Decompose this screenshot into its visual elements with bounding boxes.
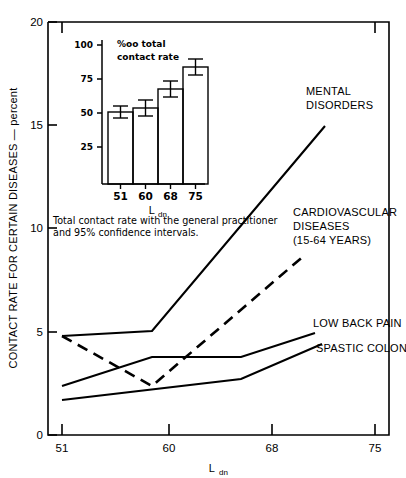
inset-y-tick-50: 50: [80, 108, 102, 118]
series-label-cardiovascular-diseases: CARDIOVASCULAR DISEASES (15-64 YEARS): [293, 206, 397, 246]
x-tick-label-60: 60: [163, 442, 176, 454]
caption-line-2: and 95% confidence intervals.: [53, 227, 199, 238]
caption-line-1: Total contact rate with the general prac…: [52, 215, 278, 226]
inset-title: %oo total contact rate: [117, 39, 179, 62]
x-tick-label-68: 68: [266, 442, 279, 454]
inset-y-axis: 100 75 50 25: [74, 40, 102, 152]
inset-title-line2: contact rate: [117, 52, 179, 62]
y-tick-0: 0: [37, 429, 57, 441]
svg-text:SPASTIC COLON: SPASTIC COLON: [316, 342, 406, 354]
inset-x-label-51: 51: [113, 190, 128, 202]
y-tick-label-10: 10: [30, 222, 43, 234]
inset-y-tick-75: 75: [80, 74, 102, 84]
chart-svg: 20 15 10 5 0: [0, 0, 406, 478]
inset-bar-60: [133, 100, 158, 184]
x-axis-title-base: L: [209, 462, 215, 474]
y-tick-label-20: 20: [30, 16, 43, 28]
y-tick-20: 20: [30, 16, 57, 28]
inset-x-label-75: 75: [188, 190, 203, 202]
series-line-spastic-colon: [62, 344, 322, 400]
inset-y-tick-25: 25: [80, 142, 102, 152]
svg-text:MENTAL: MENTAL: [306, 85, 351, 97]
main-x-axis-title: L dn: [209, 462, 228, 477]
svg-text:DISEASES: DISEASES: [293, 220, 350, 232]
inset-bar-51: [108, 106, 133, 184]
svg-text:25: 25: [80, 142, 93, 152]
inset-x-label-60: 60: [138, 190, 153, 202]
x-tick-51: 51: [56, 22, 69, 454]
svg-text:75: 75: [80, 74, 93, 84]
y-tick-15: 15: [30, 119, 57, 131]
x-tick-label-75: 75: [369, 442, 382, 454]
x-tick-label-51: 51: [56, 442, 69, 454]
svg-text:CONTACT RATE FOR CERTAIN DISEA: CONTACT RATE FOR CERTAIN DISEASES — perc…: [7, 88, 19, 369]
x-tick-60: 60: [163, 424, 176, 454]
main-y-axis-title: CONTACT RATE FOR CERTAIN DISEASES — perc…: [7, 88, 19, 369]
y-tick-label-0: 0: [37, 429, 43, 441]
inset-x-label-68: 68: [163, 190, 178, 202]
inset-bar-chart: 100 75 50 25: [74, 39, 208, 219]
series-label-low-back-pain: LOW BACK PAIN: [313, 317, 402, 329]
x-tick-68: 68: [266, 424, 279, 454]
series-label-spastic-colon: SPASTIC COLON: [316, 342, 406, 354]
svg-text:LOW BACK PAIN: LOW BACK PAIN: [313, 317, 402, 329]
inset-bar-75: [183, 59, 208, 184]
inset-y-tick-100: 100: [74, 40, 102, 50]
series-label-mental-disorders: MENTAL DISORDERS: [306, 85, 373, 111]
svg-text:100: 100: [74, 40, 93, 50]
svg-text:50: 50: [80, 108, 93, 118]
svg-text:(15-64 YEARS): (15-64 YEARS): [293, 234, 371, 246]
chart-figure: 20 15 10 5 0: [0, 0, 406, 478]
series-line-low-back-pain: [62, 333, 315, 386]
svg-text:DISORDERS: DISORDERS: [306, 99, 373, 111]
x-axis-title-sub: dn: [219, 468, 228, 477]
y-tick-label-15: 15: [30, 119, 43, 131]
inset-bar-68: [158, 81, 183, 184]
y-tick-5: 5: [37, 326, 57, 338]
svg-text:CARDIOVASCULAR: CARDIOVASCULAR: [293, 206, 397, 218]
inset-caption: Total contact rate with the general prac…: [52, 215, 278, 238]
inset-x-axis: 51 60 68 75: [113, 184, 203, 202]
inset-title-line1: %oo total: [117, 39, 165, 49]
y-tick-label-5: 5: [37, 326, 43, 338]
chart-canvas: 20 15 10 5 0: [0, 0, 406, 478]
